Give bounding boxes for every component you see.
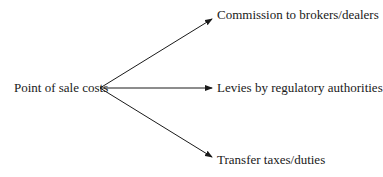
target-node-transfer-taxes: Transfer taxes/duties [217,153,325,167]
target-node-levies: Levies by regulatory authorities [217,81,383,95]
target-node-commission: Commission to brokers/dealers [217,8,379,22]
arrow-to-transfer-taxes [100,88,212,157]
arrow-to-commission [100,19,212,88]
source-node-label: Point of sale costs [14,81,108,95]
